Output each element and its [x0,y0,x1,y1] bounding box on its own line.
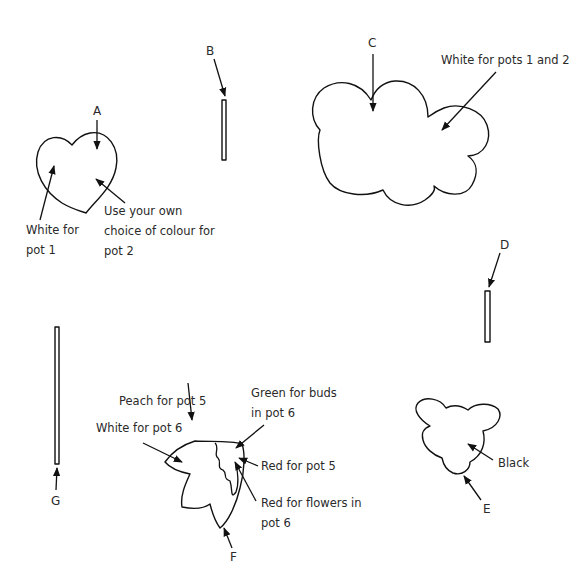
label-f: F [230,550,237,564]
label-e: E [483,502,491,516]
note-e-black: Black [498,453,529,473]
arrow-e [464,476,481,500]
note-f-peach: Peach for pot 5 [119,391,206,411]
note-a-white: White for pot 1 [26,220,79,260]
note-f-red5: Red for pot 5 [261,456,336,476]
flower-cluster-f [165,441,244,528]
label-g: G [51,494,60,508]
label-c: C [368,36,376,50]
note-f-red6: Red for flowers in pot 6 [261,493,362,533]
label-d: D [500,238,509,252]
bear-head-e [416,399,500,474]
note-f-green: Green for buds in pot 6 [251,383,337,423]
stick-b [222,100,226,160]
label-a: A [93,104,101,118]
note-c-white: White for pots 1 and 2 [441,50,570,70]
arrow-b [214,59,225,96]
note-f-white: White for pot 6 [96,418,182,438]
arrow-d [489,253,500,287]
label-b: B [206,44,214,58]
note-a-own-colour: Use your own choice of colour for pot 2 [104,201,215,261]
cloud-shape-c [313,81,489,205]
arrow-f [224,528,232,548]
arrow-f-green [236,425,264,448]
stick-g [55,327,59,464]
stick-d [485,291,490,342]
arrow-g [56,468,57,490]
